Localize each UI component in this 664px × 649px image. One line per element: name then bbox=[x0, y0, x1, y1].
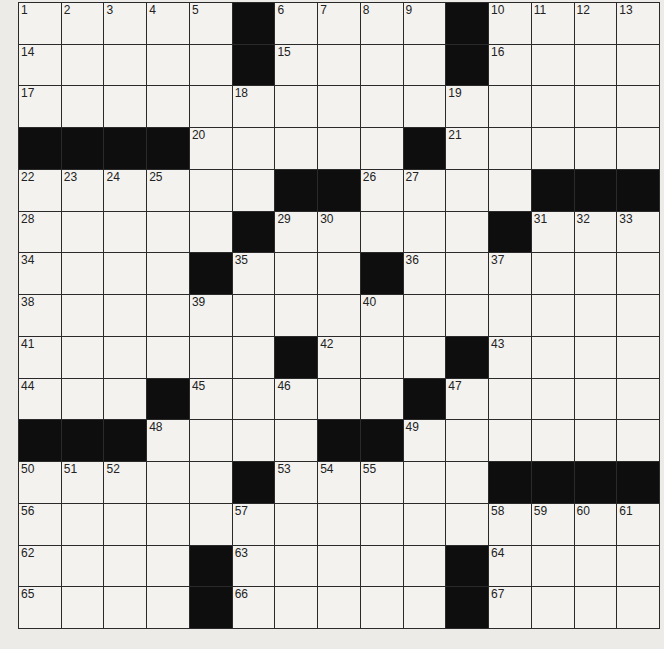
grid-cell[interactable]: 41 bbox=[19, 337, 61, 378]
grid-cell[interactable] bbox=[617, 546, 659, 587]
grid-cell[interactable] bbox=[275, 86, 317, 127]
grid-cell[interactable] bbox=[446, 420, 488, 461]
grid-cell[interactable] bbox=[318, 45, 360, 86]
grid-cell[interactable]: 66 bbox=[233, 587, 275, 628]
grid-cell[interactable] bbox=[617, 86, 659, 127]
grid-cell[interactable] bbox=[233, 337, 275, 378]
grid-cell[interactable] bbox=[104, 253, 146, 294]
grid-cell[interactable] bbox=[361, 504, 403, 545]
grid-cell[interactable]: 14 bbox=[19, 45, 61, 86]
grid-cell[interactable] bbox=[446, 212, 488, 253]
grid-cell[interactable] bbox=[147, 253, 189, 294]
grid-cell[interactable] bbox=[190, 170, 232, 211]
grid-cell[interactable] bbox=[446, 295, 488, 336]
grid-cell[interactable] bbox=[489, 295, 531, 336]
grid-cell[interactable] bbox=[62, 295, 104, 336]
grid-cell[interactable]: 30 bbox=[318, 212, 360, 253]
grid-cell[interactable] bbox=[190, 420, 232, 461]
grid-cell[interactable]: 27 bbox=[404, 170, 446, 211]
grid-cell[interactable] bbox=[617, 128, 659, 169]
grid-cell[interactable] bbox=[532, 295, 574, 336]
grid-cell[interactable] bbox=[147, 587, 189, 628]
grid-cell[interactable] bbox=[446, 253, 488, 294]
grid-cell[interactable]: 54 bbox=[318, 462, 360, 503]
grid-cell[interactable] bbox=[318, 504, 360, 545]
grid-cell[interactable] bbox=[275, 420, 317, 461]
grid-cell[interactable]: 38 bbox=[19, 295, 61, 336]
grid-cell[interactable] bbox=[446, 462, 488, 503]
grid-cell[interactable] bbox=[575, 420, 617, 461]
grid-cell[interactable] bbox=[190, 504, 232, 545]
grid-cell[interactable]: 39 bbox=[190, 295, 232, 336]
grid-cell[interactable] bbox=[233, 295, 275, 336]
grid-cell[interactable]: 57 bbox=[233, 504, 275, 545]
grid-cell[interactable]: 2 bbox=[62, 3, 104, 44]
grid-cell[interactable] bbox=[190, 86, 232, 127]
grid-cell[interactable] bbox=[532, 253, 574, 294]
grid-cell[interactable] bbox=[361, 379, 403, 420]
grid-cell[interactable]: 15 bbox=[275, 45, 317, 86]
grid-cell[interactable] bbox=[404, 546, 446, 587]
grid-cell[interactable]: 13 bbox=[617, 3, 659, 44]
grid-cell[interactable]: 29 bbox=[275, 212, 317, 253]
grid-cell[interactable] bbox=[361, 86, 403, 127]
grid-cell[interactable] bbox=[489, 420, 531, 461]
grid-cell[interactable] bbox=[532, 546, 574, 587]
grid-cell[interactable]: 47 bbox=[446, 379, 488, 420]
grid-cell[interactable]: 7 bbox=[318, 3, 360, 44]
grid-cell[interactable] bbox=[147, 504, 189, 545]
grid-cell[interactable]: 32 bbox=[575, 212, 617, 253]
grid-cell[interactable]: 46 bbox=[275, 379, 317, 420]
grid-cell[interactable] bbox=[318, 546, 360, 587]
grid-cell[interactable] bbox=[62, 212, 104, 253]
grid-cell[interactable]: 5 bbox=[190, 3, 232, 44]
grid-cell[interactable] bbox=[575, 45, 617, 86]
grid-cell[interactable] bbox=[575, 86, 617, 127]
grid-cell[interactable]: 62 bbox=[19, 546, 61, 587]
grid-cell[interactable] bbox=[532, 45, 574, 86]
grid-cell[interactable]: 11 bbox=[532, 3, 574, 44]
grid-cell[interactable] bbox=[104, 212, 146, 253]
grid-cell[interactable] bbox=[404, 337, 446, 378]
grid-cell[interactable] bbox=[575, 295, 617, 336]
grid-cell[interactable] bbox=[404, 587, 446, 628]
grid-cell[interactable] bbox=[62, 546, 104, 587]
grid-cell[interactable] bbox=[104, 45, 146, 86]
grid-cell[interactable] bbox=[575, 587, 617, 628]
grid-cell[interactable]: 37 bbox=[489, 253, 531, 294]
grid-cell[interactable]: 67 bbox=[489, 587, 531, 628]
grid-cell[interactable] bbox=[190, 337, 232, 378]
grid-cell[interactable] bbox=[489, 86, 531, 127]
grid-cell[interactable] bbox=[361, 45, 403, 86]
grid-cell[interactable] bbox=[575, 546, 617, 587]
grid-cell[interactable] bbox=[233, 420, 275, 461]
grid-cell[interactable] bbox=[404, 504, 446, 545]
grid-cell[interactable] bbox=[62, 45, 104, 86]
grid-cell[interactable]: 22 bbox=[19, 170, 61, 211]
grid-cell[interactable]: 52 bbox=[104, 462, 146, 503]
grid-cell[interactable] bbox=[489, 170, 531, 211]
grid-cell[interactable] bbox=[617, 587, 659, 628]
grid-cell[interactable] bbox=[190, 45, 232, 86]
grid-cell[interactable]: 59 bbox=[532, 504, 574, 545]
grid-cell[interactable]: 58 bbox=[489, 504, 531, 545]
grid-cell[interactable]: 60 bbox=[575, 504, 617, 545]
grid-cell[interactable] bbox=[617, 45, 659, 86]
grid-cell[interactable]: 40 bbox=[361, 295, 403, 336]
grid-cell[interactable] bbox=[62, 379, 104, 420]
grid-cell[interactable]: 31 bbox=[532, 212, 574, 253]
grid-cell[interactable]: 65 bbox=[19, 587, 61, 628]
grid-cell[interactable] bbox=[147, 45, 189, 86]
grid-cell[interactable] bbox=[404, 45, 446, 86]
grid-cell[interactable] bbox=[361, 128, 403, 169]
grid-cell[interactable] bbox=[361, 546, 403, 587]
grid-cell[interactable]: 35 bbox=[233, 253, 275, 294]
grid-cell[interactable] bbox=[190, 212, 232, 253]
grid-cell[interactable] bbox=[147, 337, 189, 378]
grid-cell[interactable] bbox=[532, 86, 574, 127]
grid-cell[interactable]: 36 bbox=[404, 253, 446, 294]
grid-cell[interactable] bbox=[233, 170, 275, 211]
grid-cell[interactable] bbox=[104, 379, 146, 420]
grid-cell[interactable] bbox=[233, 379, 275, 420]
grid-cell[interactable] bbox=[489, 379, 531, 420]
